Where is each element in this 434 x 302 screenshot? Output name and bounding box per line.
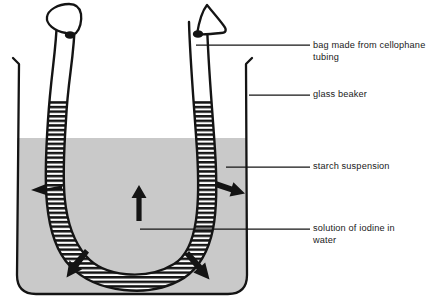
- bag-knot-right: [193, 5, 226, 38]
- label-glass-beaker: glass beaker: [313, 89, 431, 101]
- label-bag-made-from-cellophane-tubing: bag made from cellophane tubing: [313, 40, 431, 63]
- diagram-page: bag made from cellophane tubing glass be…: [0, 0, 434, 302]
- bag-knot-left: [47, 4, 81, 39]
- label-starch-suspension: starch suspension: [313, 161, 431, 173]
- label-solution-of-iodine-in-water: solution of iodine in water: [313, 223, 431, 246]
